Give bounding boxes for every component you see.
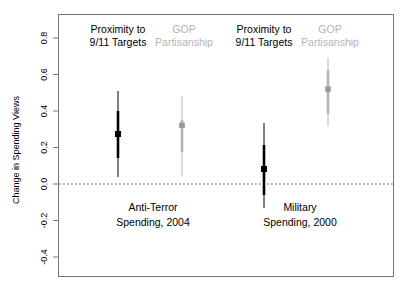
- point-estimate: [115, 131, 121, 137]
- group1-series2-header-line1: GOP: [172, 23, 195, 35]
- y-tick-label-4: 0.0: [39, 178, 49, 191]
- chart-canvas: 0.8 0.6 0.4 0.2 0.0 -0.2 -0.4 Change in …: [0, 0, 413, 307]
- group2-label-line1: Military: [283, 201, 317, 213]
- y-tick-label-0: 0.8: [39, 32, 49, 45]
- group1-series1-header-line2: 9/11 Targets: [90, 36, 147, 48]
- group1-series1-header-line1: Proximity to: [91, 23, 146, 35]
- group2-label-line2: Spending, 2000: [263, 216, 337, 228]
- y-tick-label-5: -0.2: [39, 213, 49, 229]
- point-estimate: [261, 166, 267, 172]
- group2-series1-header-line1: Proximity to: [237, 23, 292, 35]
- point-estimate: [179, 123, 185, 129]
- y-tick-label-2: 0.4: [39, 105, 49, 118]
- group1-series2-header-line2: Partisanship: [155, 36, 213, 48]
- chart-figure: 0.8 0.6 0.4 0.2 0.0 -0.2 -0.4 Change in …: [0, 0, 413, 307]
- point-estimate: [325, 87, 331, 93]
- group1-label-line1: Anti-Terror: [128, 201, 178, 213]
- y-axis-title: Change in Spending Views: [11, 96, 21, 204]
- group2-series1-header-line2: 9/11 Targets: [236, 36, 293, 48]
- group2-series2-header-line2: Partisanship: [301, 36, 359, 48]
- y-tick-label-6: -0.4: [39, 249, 49, 265]
- y-tick-label-1: 0.6: [39, 68, 49, 81]
- group2-series2-header-line1: GOP: [318, 23, 341, 35]
- y-tick-label-3: 0.2: [39, 141, 49, 154]
- group1-label-line2: Spending, 2004: [116, 216, 190, 228]
